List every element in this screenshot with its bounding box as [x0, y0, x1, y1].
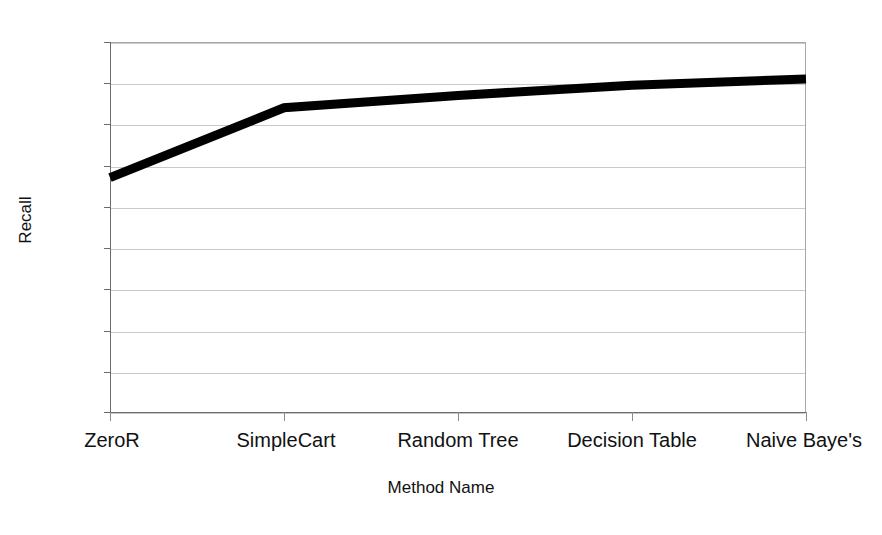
x-tick-label-random-tree: Random Tree [358, 428, 558, 452]
gridline-0.7 [111, 125, 805, 126]
y-tick-mark [104, 124, 111, 125]
x-tick-label-decision-table: Decision Table [532, 428, 732, 452]
x-tick-mark [284, 412, 285, 421]
x-tick-mark [632, 412, 633, 421]
y-axis-title: Recall [16, 175, 36, 265]
y-axis-line [110, 42, 111, 413]
x-tick-label-simplecart: SimpleCart [186, 428, 386, 452]
gridline-0.6 [111, 167, 805, 168]
y-tick-mark [104, 207, 111, 208]
y-tick-mark [104, 248, 111, 249]
gridline-0.2 [111, 332, 805, 333]
y-tick-mark [104, 42, 111, 43]
x-tick-label-zeror: ZeroR [12, 428, 212, 452]
gridline-0.1 [111, 373, 805, 374]
gridline-0.8 [111, 84, 805, 85]
y-tick-mark [104, 83, 111, 84]
x-tick-label-naive-bayes: Naive Baye's [704, 428, 882, 452]
y-tick-mark [104, 289, 111, 290]
plot-area [110, 42, 806, 413]
gridline-0.5 [111, 208, 805, 209]
gridline-0.3 [111, 290, 805, 291]
chart-title [0, 0, 882, 1]
x-axis-title: Method Name [0, 478, 882, 498]
y-tick-mark [104, 166, 111, 167]
x-tick-mark [110, 412, 111, 421]
x-tick-mark [806, 412, 807, 421]
x-tick-mark [458, 412, 459, 421]
y-tick-mark [104, 372, 111, 373]
y-tick-mark [104, 331, 111, 332]
chart-figure: 0.9 0.8 0.7 0.6 0.5 0.4 0.3 0.2 0.1 0 Re… [0, 0, 882, 535]
gridline-0.4 [111, 249, 805, 250]
gridline-0.9 [111, 43, 805, 44]
